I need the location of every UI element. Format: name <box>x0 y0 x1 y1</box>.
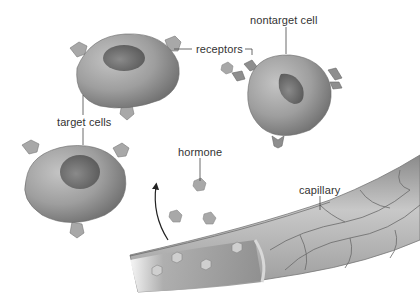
hormone-molecule <box>221 62 233 74</box>
hormone-molecule <box>203 212 216 224</box>
label-capillary: capillary <box>299 184 340 196</box>
label-nontarget-cell: nontarget cell <box>250 14 317 26</box>
label-target-cells: target cells <box>57 116 111 128</box>
target-cell-1 <box>70 34 181 120</box>
hormone-diagram: receptors nontarget cell target cells ho… <box>0 0 420 303</box>
free-hormones <box>169 62 233 224</box>
capillary <box>130 155 420 292</box>
hormone-molecule <box>169 210 182 222</box>
label-receptors: receptors <box>196 43 243 55</box>
hormone-molecule <box>193 178 206 191</box>
secretion-arrow <box>155 186 168 240</box>
label-hormone: hormone <box>178 146 222 158</box>
nontarget-cell <box>232 55 342 148</box>
target-cell-2 <box>22 140 129 238</box>
